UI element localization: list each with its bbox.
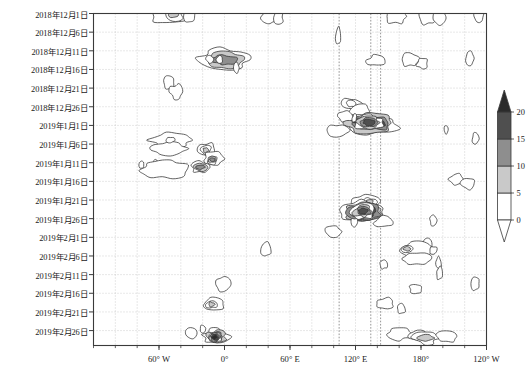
x-axis-tick-label: 60° E — [280, 354, 299, 364]
colorbar-arrow-min — [498, 220, 512, 242]
y-axis-tick-label: 2019年1月1日 — [39, 119, 87, 131]
y-axis-tick-label: 2018年12月21日 — [31, 82, 87, 94]
colorbar-tick-label: 5 — [517, 189, 521, 198]
colorbar-swatch — [498, 112, 512, 139]
y-axis-tick-label: 2019年2月16日 — [35, 287, 87, 299]
x-axis-tick-label: 120° E — [344, 354, 368, 364]
x-axis-tick-label: 0° — [221, 354, 229, 364]
y-axis-tick-label: 2019年2月1日 — [39, 231, 87, 243]
contour-ring — [471, 277, 479, 291]
colorbar-arrow-max — [498, 90, 512, 112]
colorbar-swatch — [498, 166, 512, 193]
y-axis-tick-label: 2019年1月21日 — [35, 194, 87, 206]
y-axis-tick-label: 2019年1月11日 — [35, 157, 87, 169]
colorbar-tick-label: 10 — [517, 162, 525, 171]
y-axis-tick-label: 2019年1月16日 — [35, 175, 87, 187]
y-axis-tick-label: 2018年12月26日 — [31, 101, 87, 113]
y-axis-tick-label: 2019年1月26日 — [35, 213, 87, 225]
x-axis-tick-label: 120° W — [473, 354, 499, 364]
contour-ring — [168, 11, 178, 17]
y-axis-tick-label: 2018年12月1日 — [35, 8, 87, 20]
colorbar-tick-label: 15 — [517, 135, 525, 144]
colorbar-tick-label: 0 — [517, 216, 521, 225]
y-axis-tick-label: 2019年2月21日 — [35, 306, 87, 318]
contour-ring — [409, 284, 421, 293]
colorbar-swatch — [498, 193, 512, 220]
y-axis-tick-label: 2019年1月6日 — [39, 138, 87, 150]
y-axis-tick-label: 2019年2月11日 — [35, 269, 87, 281]
colorbar — [498, 90, 515, 242]
colorbar-tick-label: 20 — [517, 108, 525, 117]
y-axis-tick-label: 2018年12月11日 — [31, 45, 87, 57]
y-axis-tick-label: 2019年2月26日 — [35, 325, 87, 337]
contour-ring — [139, 161, 144, 168]
x-axis-tick-label: 180° — [413, 354, 429, 364]
y-axis-tick-label: 2018年12月16日 — [31, 63, 87, 75]
colorbar-swatch — [498, 139, 512, 166]
y-axis-tick-label: 2019年2月6日 — [39, 250, 87, 262]
hovmoller-figure: 2018年12月1日2018年12月6日2018年12月11日2018年12月1… — [0, 0, 530, 381]
contour-ring — [380, 260, 388, 269]
contour-ring — [183, 8, 194, 22]
y-axis-tick-label: 2018年12月6日 — [35, 26, 87, 38]
x-axis-tick-label: 60° W — [148, 354, 170, 364]
